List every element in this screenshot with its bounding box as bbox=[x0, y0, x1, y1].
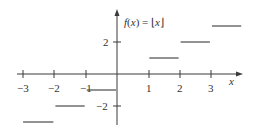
floor-function-graph: −3 −2 −1 1 2 3 x 2 −2 f(x) = ⌊x⌋ bbox=[0, 0, 255, 135]
y-axis-arrow-icon bbox=[115, 9, 120, 16]
x-tick-label: 3 bbox=[208, 82, 214, 94]
x-tick-label: −2 bbox=[48, 82, 60, 94]
x-tick-label: 2 bbox=[177, 82, 183, 94]
x-tick-label: −3 bbox=[17, 82, 29, 94]
x-tick-label: 1 bbox=[146, 82, 152, 94]
chart-title: f(x) = ⌊x⌋ bbox=[124, 16, 164, 29]
x-tick-label: −1 bbox=[80, 82, 92, 94]
y-tick-label: 2 bbox=[103, 36, 109, 48]
x-axis-label: x bbox=[228, 75, 234, 87]
x-axis-arrow-icon bbox=[236, 72, 243, 77]
y-tick-label: −2 bbox=[96, 100, 108, 112]
